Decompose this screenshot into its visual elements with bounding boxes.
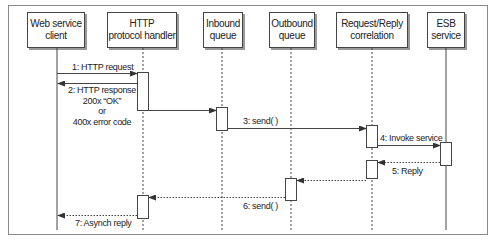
- message-2-label: 2: HTTP response 200x “OK” or 400x error…: [66, 85, 138, 127]
- activation-inbound: [217, 108, 228, 131]
- activation-http-2: [138, 196, 149, 219]
- activation-correlation-2: [367, 161, 378, 179]
- activation-correlation-1: [367, 126, 378, 148]
- message-1-label: 1: HTTP request: [72, 62, 133, 72]
- message-6-label: 6: send( ): [243, 201, 278, 211]
- message-7-label: 7: Asynch reply: [75, 218, 132, 228]
- message-4-label: 4: Invoke service: [380, 133, 442, 143]
- activation-outbound: [286, 179, 297, 201]
- activation-http-1: [138, 73, 149, 111]
- message-3-label: 3: send( ): [243, 116, 278, 126]
- activation-esb: [441, 143, 452, 166]
- message-5-label: 5: Reply: [392, 166, 423, 176]
